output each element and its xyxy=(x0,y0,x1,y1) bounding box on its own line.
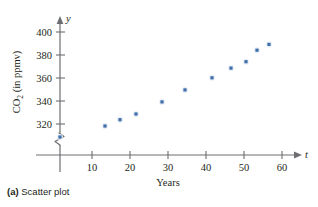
x-tick-label: 30 xyxy=(163,162,174,173)
x-tick-label: 20 xyxy=(125,162,136,173)
x-tick-label: 10 xyxy=(87,162,98,173)
figure-caption: (a) Scatter plot xyxy=(7,186,69,197)
y-axis-variable-label: y xyxy=(65,13,71,24)
scatter-plot-figure: 10 20 30 40 50 60 320 340 360 380 400 y … xyxy=(0,0,318,207)
data-point xyxy=(228,65,234,71)
data-point xyxy=(182,87,188,93)
data-point xyxy=(209,75,215,81)
scatter-plot-canvas: 10 20 30 40 50 60 320 340 360 380 400 y … xyxy=(0,0,318,207)
x-axis-arrow-icon xyxy=(294,152,302,159)
axes-group xyxy=(36,16,302,172)
data-point xyxy=(57,134,63,140)
data-point xyxy=(254,47,260,53)
x-axis-title: Years xyxy=(156,177,179,188)
data-point xyxy=(159,99,165,105)
x-tick-label: 60 xyxy=(277,162,288,173)
figure-caption-prefix: (a) xyxy=(7,186,19,197)
y-tick-label: 320 xyxy=(36,119,52,130)
y-axis-arrow-icon xyxy=(57,16,64,24)
y-axis-title: CO2 (in ppmv) xyxy=(11,50,25,113)
x-tick-label: 40 xyxy=(201,162,212,173)
x-tick-labels-group: 10 20 30 40 50 60 xyxy=(87,162,288,173)
data-point xyxy=(117,117,123,123)
x-tick-label: 50 xyxy=(239,162,250,173)
data-point xyxy=(102,123,108,129)
y-tick-label: 400 xyxy=(36,27,52,38)
data-point xyxy=(266,41,272,47)
y-tick-labels-group: 320 340 360 380 400 xyxy=(36,27,52,130)
y-tick-label: 380 xyxy=(36,50,52,61)
data-point xyxy=(133,111,139,117)
data-points-group xyxy=(57,41,272,140)
y-tick-label: 340 xyxy=(36,96,52,107)
figure-caption-text: Scatter plot xyxy=(21,186,69,197)
data-point xyxy=(243,59,249,65)
x-axis-variable-label: t xyxy=(305,149,309,160)
y-tick-label: 360 xyxy=(36,73,52,84)
